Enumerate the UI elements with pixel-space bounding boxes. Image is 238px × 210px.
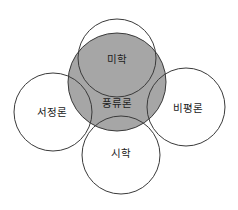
- venn-diagram: 미학 서정론 비평론 시학 풍류론: [0, 0, 238, 210]
- label-sihak: 시학: [111, 147, 131, 159]
- label-seojeongron: 서정론: [37, 106, 67, 118]
- label-bipyeongron: 비평론: [173, 102, 203, 114]
- label-pungryuron: 풍류론: [102, 97, 132, 109]
- label-mihak: 미학: [107, 53, 127, 65]
